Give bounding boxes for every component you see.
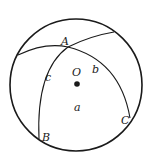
label-side-a: a (74, 101, 81, 114)
spherical-triangle-diagram: A O b c a C B (0, 0, 152, 167)
center-point (74, 81, 80, 87)
label-center-o: O (72, 66, 81, 79)
label-side-b: b (92, 63, 99, 76)
label-vertex-c: C (121, 114, 130, 127)
label-vertex-a: A (60, 35, 69, 48)
label-side-c: c (45, 71, 51, 84)
side-c-arc (39, 47, 68, 139)
label-vertex-b: B (41, 131, 50, 144)
